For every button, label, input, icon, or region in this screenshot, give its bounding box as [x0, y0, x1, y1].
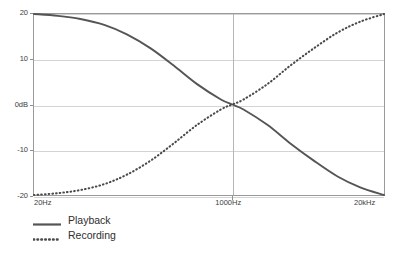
legend-swatch-dotted-icon — [33, 230, 61, 239]
y-tick-label-0dB: 0dB — [2, 101, 28, 109]
y-tick-label-20: 20 — [2, 9, 28, 17]
chart-legend: Playback Recording — [33, 212, 233, 242]
series-line-recording — [34, 14, 384, 195]
curves-layer — [34, 14, 384, 195]
x-tick-label-20Hz: 20Hz — [34, 199, 52, 207]
x-tick-mark — [232, 196, 233, 200]
legend-swatch-solid-icon — [33, 215, 61, 224]
y-tick-label--20: -20 — [2, 192, 28, 200]
legend-item-recording: Recording — [33, 227, 233, 242]
frequency-response-chart: 20100dB-10-20 20Hz1000Hz20kHz Playback — [0, 0, 403, 254]
gridline-y--20 — [34, 197, 384, 198]
x-tick-label-1000Hz: 1000Hz — [215, 199, 241, 207]
legend-item-playback: Playback — [33, 212, 233, 227]
y-tick-label--10: -10 — [2, 146, 28, 154]
legend-label-playback: Playback — [68, 214, 111, 226]
plot-area — [33, 13, 385, 196]
y-tick-mark — [30, 196, 33, 197]
y-tick-label-10: 10 — [2, 55, 28, 63]
x-tick-label-20kHz: 20kHz — [354, 199, 375, 207]
series-line-playback — [34, 14, 384, 195]
legend-label-recording: Recording — [68, 229, 116, 241]
